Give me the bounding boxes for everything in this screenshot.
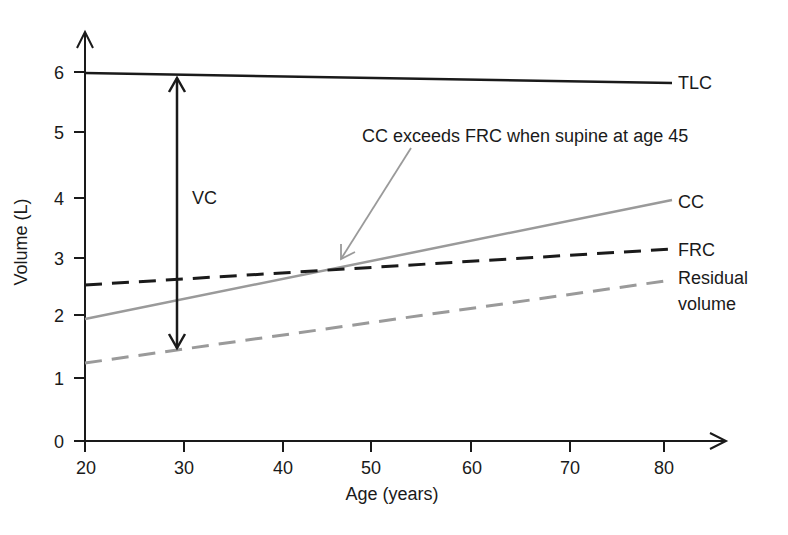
annotation-arrow	[341, 148, 411, 259]
x-tick-label: 50	[361, 458, 381, 478]
x-tick-label: 60	[462, 458, 482, 478]
cc-label: CC	[678, 192, 704, 212]
x-tick-labels: 20 30 40 50 60 70 80	[76, 458, 674, 478]
x-axis-title: Age (years)	[345, 484, 438, 504]
y-tick-label: 1	[54, 369, 64, 389]
series-labels: TLC CC FRC Residual volume	[678, 73, 748, 314]
y-tick-label: 6	[54, 63, 64, 83]
cc-line	[85, 200, 672, 319]
y-tick-label: 0	[54, 432, 64, 452]
annotation-text: CC exceeds FRC when supine at age 45	[362, 126, 688, 146]
y-axis	[77, 32, 93, 443]
residual-volume-line	[85, 280, 672, 363]
x-tick-label: 40	[273, 458, 293, 478]
y-tick-labels: 0 1 2 3 4 5 6	[54, 63, 64, 452]
x-axis	[75, 433, 726, 449]
residual-volume-label-line1: Residual	[678, 268, 748, 288]
x-ticks	[85, 441, 664, 452]
frc-line	[85, 249, 672, 285]
y-tick-label: 4	[54, 189, 64, 209]
residual-volume-label-line2: volume	[678, 294, 736, 314]
x-tick-label: 80	[654, 458, 674, 478]
y-ticks	[74, 72, 85, 441]
tlc-label: TLC	[678, 73, 712, 93]
x-tick-label: 70	[560, 458, 580, 478]
vc-label: VC	[192, 188, 217, 208]
x-tick-label: 30	[174, 458, 194, 478]
frc-label: FRC	[678, 240, 715, 260]
y-tick-label: 5	[54, 123, 64, 143]
x-tick-label: 20	[76, 458, 96, 478]
tlc-line	[85, 73, 672, 83]
y-tick-label: 2	[54, 306, 64, 326]
vc-arrow	[169, 78, 185, 348]
lung-volume-chart: 0 1 2 3 4 5 6 20 30 40 50 60 70 80 Age (…	[0, 0, 788, 535]
y-tick-label: 3	[54, 249, 64, 269]
y-axis-title: Volume (L)	[11, 198, 31, 285]
